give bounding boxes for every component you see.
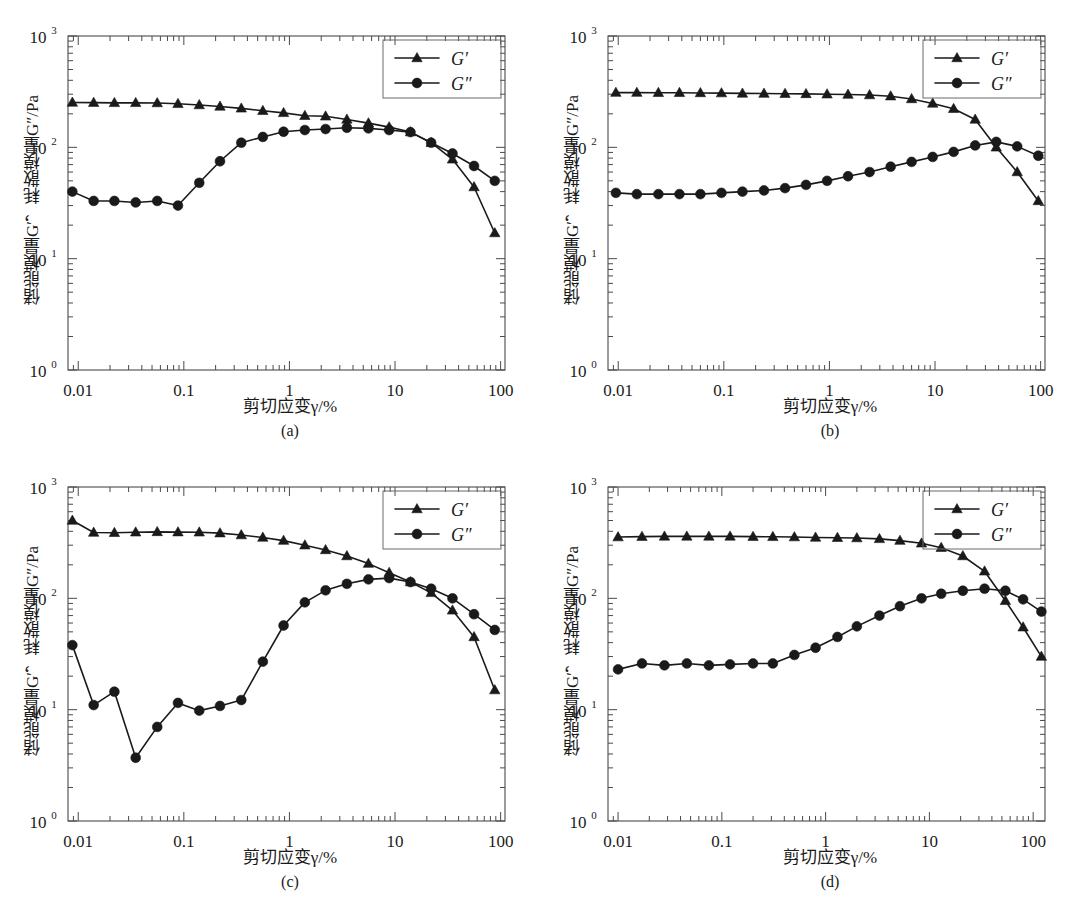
data-point-marker [660,660,670,670]
data-point-marker [970,141,980,151]
legend-entry-g-double-prime: G″ [935,74,1012,94]
data-point-marker [675,189,685,199]
data-point-marker [682,659,692,669]
data-point-marker [801,88,811,97]
svg-text:1: 1 [591,247,597,259]
data-point-marker [1001,586,1011,596]
legend-box [383,491,501,549]
data-point-marker [67,515,77,524]
svg-text:1: 1 [591,698,597,710]
svg-text:10: 10 [570,28,587,47]
data-point-marker [949,147,959,157]
data-point-marker [716,88,726,97]
data-point-marker [88,527,98,536]
panel-b-plot: 0.010.1110100100101102103G′G″ [540,0,1080,451]
y-tick-label: 103 [570,24,598,47]
svg-text:G′: G′ [991,500,1009,520]
y-tick-label: 103 [570,475,598,498]
panel-c-x-axis-label: 剪切应变γ/% [60,843,520,868]
data-point-marker [236,695,246,705]
data-point-marker [490,685,500,694]
data-point-marker [674,87,684,96]
svg-text:3: 3 [51,475,57,487]
data-point-marker [637,659,647,669]
data-point-marker [768,531,778,540]
svg-text:2: 2 [591,586,597,598]
data-point-marker [364,123,374,133]
data-point-marker [130,97,140,106]
data-point-marker [768,659,778,669]
data-point-marker [152,722,162,732]
panel-d: 储能模量G′，耗散模量G″/Pa 0.010.11101001001011021… [540,451,1080,902]
data-point-marker [811,643,821,653]
data-point-marker [194,706,204,716]
data-point-marker [131,753,141,763]
data-point-marker [490,176,500,186]
y-tick-label: 100 [570,809,598,832]
data-point-marker [490,625,500,635]
legend-box [923,491,1041,549]
panel-a-plot: 0.010.1110100100101102103G′G″ [0,0,540,451]
legend-entry-g-prime: G′ [395,49,469,69]
svg-text:10: 10 [570,251,587,270]
y-tick-label: 102 [570,135,597,158]
data-point-marker [173,201,183,211]
data-point-marker [748,531,758,540]
svg-text:3: 3 [51,24,57,36]
legend-entry-g-prime: G′ [935,49,1009,69]
data-point-marker [613,664,623,674]
data-point-marker [109,196,119,206]
data-point-marker [886,162,896,172]
data-point-marker [789,532,799,541]
svg-text:10: 10 [30,479,47,498]
data-point-marker [695,87,705,96]
data-point-marker [653,87,663,96]
data-point-marker [258,132,268,142]
data-point-marker [194,178,204,188]
data-point-marker [659,531,669,540]
data-point-marker [704,531,714,540]
data-point-marker [865,167,875,177]
legend-entry-g-prime: G′ [395,500,469,520]
data-point-marker [173,527,183,536]
data-point-marker [279,621,289,631]
data-point-marker [89,196,99,206]
data-point-marker [780,88,790,97]
y-tick-label: 103 [30,475,58,498]
data-point-marker [991,137,1001,147]
svg-text:10: 10 [570,813,587,832]
legend-entry-g-double-prime: G″ [395,525,472,545]
data-point-marker [131,198,141,208]
svg-text:10: 10 [30,139,47,158]
svg-text:2: 2 [591,135,597,147]
svg-text:G″: G″ [451,74,472,94]
data-point-marker [258,657,268,667]
panel-b: 储能模量G′，耗散模量G″/Pa 0.010.11101001001011021… [540,0,1080,451]
svg-text:1: 1 [51,698,57,710]
data-point-marker [406,127,416,137]
y-tick-label: 100 [570,358,598,381]
data-point-marker [725,660,735,670]
svg-text:G′: G′ [451,49,469,69]
data-point-marker [384,573,394,583]
svg-text:10: 10 [570,362,587,381]
y-tick-label: 101 [570,247,597,270]
data-point-marker [279,127,289,137]
panel-c: 储能模量G′，耗散模量G″/Pa 0.010.11101001001011021… [0,451,540,902]
panel-c-caption: (c) [60,873,520,891]
figure-container: 储能模量G′，耗散模量G″/Pa 0.010.11101001001011021… [0,0,1081,902]
svg-text:0: 0 [591,358,597,370]
data-point-marker [704,660,714,670]
data-point-marker [852,621,862,631]
data-point-marker [152,526,162,535]
data-point-marker [194,527,204,536]
data-point-marker [611,87,621,96]
data-point-marker [67,187,77,197]
svg-text:0: 0 [51,809,57,821]
data-point-marker [490,228,500,237]
svg-text:2: 2 [51,586,57,598]
series-line-g-double-prime [618,589,1041,670]
y-tick-label: 103 [30,24,58,47]
svg-text:10: 10 [570,590,587,609]
data-point-marker [759,186,769,196]
